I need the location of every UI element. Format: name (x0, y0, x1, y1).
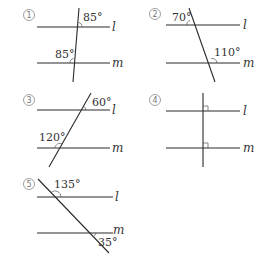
figure-1-marker: 1 (26, 11, 31, 20)
line-label-l: l (243, 104, 247, 118)
figure-4-marker: 4 (152, 96, 157, 105)
angle-label: 35° (98, 236, 118, 249)
figure-5-marker: 5 (26, 180, 31, 189)
right-angle-mark (203, 106, 208, 111)
angle-label: 70° (172, 11, 192, 24)
angle-label: 110° (214, 46, 241, 59)
line-label-m: m (112, 141, 123, 155)
angle-label: 85° (83, 11, 103, 24)
figure-4: 4 l m (150, 93, 255, 167)
angle-label: 60° (92, 96, 112, 109)
line-label-m: m (113, 223, 124, 237)
line-label-l: l (243, 18, 247, 32)
angle-label: 85° (55, 48, 75, 61)
angle-label: 120° (39, 131, 66, 144)
line-label-l: l (112, 103, 116, 117)
transversal (49, 93, 91, 167)
figure-2: 2 70° 110° l m (150, 8, 255, 82)
right-angle-mark (203, 143, 208, 148)
figure-5: 5 135° 35° l m (24, 178, 125, 253)
figure-2-marker: 2 (152, 10, 157, 19)
figure-1: 1 85° 85° l m (24, 8, 124, 82)
figure-3: 3 60° 120° l m (24, 93, 124, 167)
line-label-m: m (243, 56, 254, 70)
transversal (73, 8, 79, 82)
angle-arc (78, 23, 82, 28)
line-label-m: m (243, 141, 254, 155)
parallel-lines-diagrams: 1 85° 85° l m 2 70° 110° l m 3 60° 120° … (0, 0, 270, 267)
figure-3-marker: 3 (26, 96, 31, 105)
line-label-l: l (112, 20, 116, 34)
angle-label: 135° (54, 178, 81, 191)
transversal (189, 8, 215, 82)
line-label-m: m (112, 56, 123, 70)
angle-arc (211, 58, 217, 63)
line-label-l: l (115, 190, 119, 204)
